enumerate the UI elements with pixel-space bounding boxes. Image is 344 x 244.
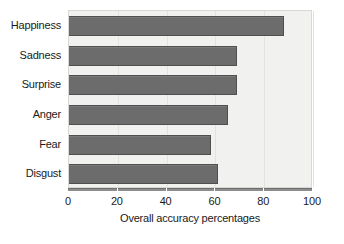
gridline-100 (313, 11, 314, 187)
x-tick-label-20: 20 (111, 194, 123, 208)
x-tick-label-0: 0 (65, 194, 71, 208)
bar-happiness (69, 16, 284, 36)
plot-area (68, 10, 312, 188)
x-tick-label-40: 40 (160, 194, 172, 208)
y-axis-label-anger: Anger (33, 104, 61, 124)
bar-sadness (69, 46, 237, 66)
y-axis-label-happiness: Happiness (11, 15, 61, 35)
bar-anger (69, 105, 228, 125)
bar-fill (69, 75, 237, 95)
x-tick-mark-60 (214, 188, 215, 193)
bar-fill (69, 164, 218, 184)
y-axis-category-labels: HappinessSadnessSurpriseAngerFearDisgust (0, 10, 64, 188)
bar-fill (69, 16, 284, 36)
bar-fill (69, 105, 228, 125)
x-tick-label-60: 60 (208, 194, 220, 208)
bars-layer (69, 11, 311, 187)
y-axis-label-surprise: Surprise (22, 74, 61, 94)
bar-fill (69, 46, 237, 66)
bar-surprise (69, 75, 237, 95)
x-tick-label-80: 80 (257, 194, 269, 208)
x-tick-mark-80 (263, 188, 264, 193)
x-tick-mark-20 (117, 188, 118, 193)
bar-fill (69, 135, 211, 155)
y-axis-label-fear: Fear (39, 134, 61, 154)
bar-disgust (69, 164, 218, 184)
x-tick-label-100: 100 (303, 194, 321, 208)
bar-chart-figure: HappinessSadnessSurpriseAngerFearDisgust… (0, 0, 344, 244)
x-axis-title: Overall accuracy percentages (68, 212, 312, 224)
x-axis-tick-labels: 020406080100 (68, 194, 312, 210)
y-axis-label-disgust: Disgust (26, 163, 61, 183)
x-tick-mark-40 (166, 188, 167, 193)
y-axis-label-sadness: Sadness (20, 45, 61, 65)
bar-fear (69, 135, 211, 155)
